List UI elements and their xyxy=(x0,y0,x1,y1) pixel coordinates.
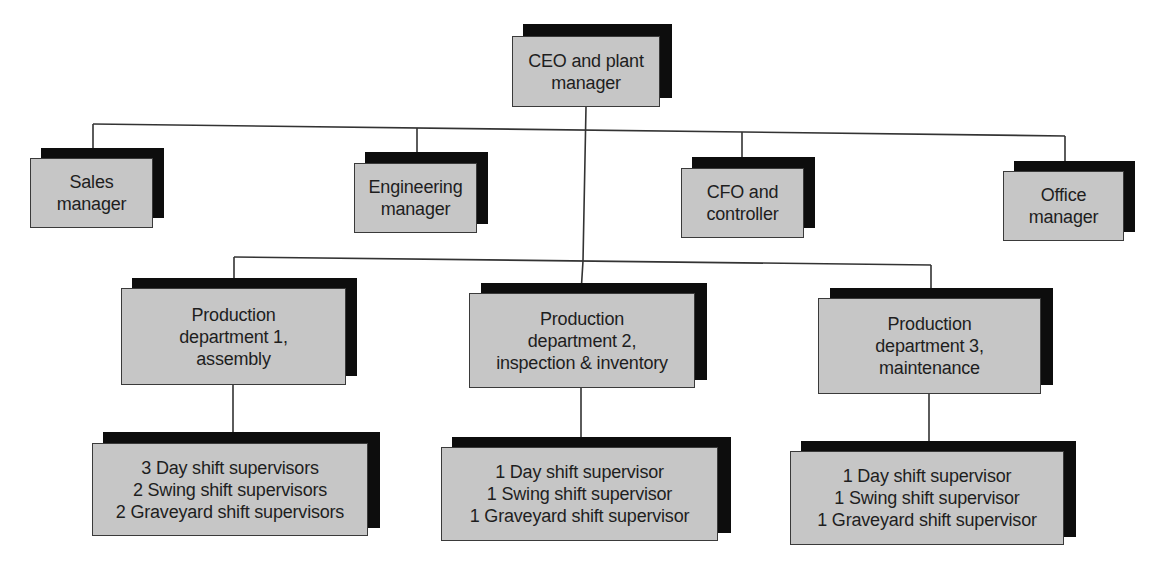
supervisor-line: 1 Graveyard shift supervisor xyxy=(470,505,690,527)
label-line: inspection & inventory xyxy=(496,352,668,374)
production-dept-1-box: Production department 1, assembly xyxy=(121,288,346,385)
label-line: Office xyxy=(1041,184,1087,206)
supervisor-line: 1 Swing shift supervisor xyxy=(487,483,672,505)
office-manager-box: Office manager xyxy=(1003,171,1124,241)
label-line: Production xyxy=(887,313,971,335)
label-line: maintenance xyxy=(879,357,980,379)
label-line: controller xyxy=(706,203,778,225)
supervisor-line: 2 Swing shift supervisors xyxy=(133,479,327,501)
label-line: Engineering xyxy=(369,176,463,198)
label-line: Sales xyxy=(69,171,113,193)
engineering-manager-box: Engineering manager xyxy=(354,163,477,233)
label-line: manager xyxy=(381,198,451,220)
label-line: department 2, xyxy=(528,330,636,352)
label-line: manager xyxy=(1029,206,1099,228)
trunk-line xyxy=(581,107,586,293)
ceo-label-line: CEO and plant xyxy=(528,50,643,72)
label-line: department 3, xyxy=(875,335,983,357)
supervisor-line: 1 Graveyard shift supervisor xyxy=(817,509,1037,531)
sales-manager-box: Sales manager xyxy=(30,158,153,228)
ceo-label-line: manager xyxy=(551,72,621,94)
label-line: CFO and xyxy=(707,181,779,203)
supervisors-dept-1-box: 3 Day shift supervisors 2 Swing shift su… xyxy=(92,443,368,536)
cfo-controller-box: CFO and controller xyxy=(681,168,804,238)
staff-bus-line xyxy=(93,124,1065,136)
label-line: Production xyxy=(191,304,275,326)
production-dept-2-box: Production department 2, inspection & in… xyxy=(469,293,695,388)
supervisors-dept-2-box: 1 Day shift supervisor 1 Swing shift sup… xyxy=(441,447,718,541)
production-dept-3-box: Production department 3, maintenance xyxy=(818,298,1041,394)
supervisor-line: 3 Day shift supervisors xyxy=(141,457,318,479)
supervisors-dept-3-box: 1 Day shift supervisor 1 Swing shift sup… xyxy=(790,451,1064,545)
label-line: department 1, xyxy=(179,326,287,348)
ceo-box: CEO and plant manager xyxy=(512,36,660,107)
label-line: Production xyxy=(540,308,624,330)
supervisor-line: 1 Swing shift supervisor xyxy=(834,487,1019,509)
supervisor-line: 2 Graveyard shift supervisors xyxy=(116,501,344,523)
label-line: assembly xyxy=(196,348,270,370)
label-line: manager xyxy=(57,193,127,215)
supervisor-line: 1 Day shift supervisor xyxy=(495,461,664,483)
supervisor-line: 1 Day shift supervisor xyxy=(843,465,1012,487)
